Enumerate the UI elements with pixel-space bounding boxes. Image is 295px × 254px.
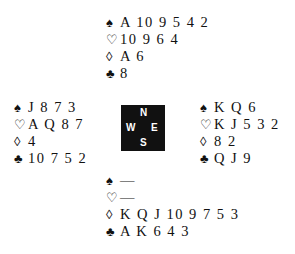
- south-diamonds: ◊K Q J 10 9 7 5 3: [106, 206, 239, 223]
- west-spades: ♠J 8 7 3: [14, 99, 87, 116]
- south-spades: ♠—: [106, 172, 239, 189]
- club-icon: ♣: [106, 65, 120, 82]
- compass-box: N W E S: [121, 105, 165, 151]
- north-clubs: ♣8: [106, 65, 209, 82]
- compass-east-label: E: [151, 122, 158, 133]
- north-diamonds: ◊A 6: [106, 48, 209, 65]
- north-spades: ♠A 10 9 5 4 2: [106, 14, 209, 31]
- diamond-icon: ◊: [106, 206, 120, 223]
- south-hearts: ♡—: [106, 189, 239, 206]
- east-spades: ♠K Q 6: [200, 99, 280, 116]
- diamond-icon: ◊: [200, 133, 214, 150]
- compass-north-label: N: [140, 107, 147, 118]
- spade-icon: ♠: [14, 99, 28, 116]
- heart-icon: ♡: [106, 31, 120, 48]
- south-hand: ♠— ♡— ◊K Q J 10 9 7 5 3 ♣A K 6 4 3: [106, 172, 239, 240]
- heart-icon: ♡: [14, 116, 28, 133]
- diamond-icon: ◊: [14, 133, 28, 150]
- west-hearts: ♡A Q 8 7: [14, 116, 87, 133]
- club-icon: ♣: [200, 150, 214, 167]
- compass-south-label: S: [140, 137, 147, 148]
- diamond-icon: ◊: [106, 48, 120, 65]
- west-diamonds: ◊4: [14, 133, 87, 150]
- heart-icon: ♡: [106, 189, 120, 206]
- club-icon: ♣: [106, 223, 120, 240]
- spade-icon: ♠: [106, 14, 120, 31]
- north-hearts: ♡10 9 6 4: [106, 31, 209, 48]
- east-hearts: ♡K J 5 3 2: [200, 116, 280, 133]
- west-hand: ♠J 8 7 3 ♡A Q 8 7 ◊4 ♣10 7 5 2: [14, 99, 87, 167]
- south-clubs: ♣A K 6 4 3: [106, 223, 239, 240]
- compass-west-label: W: [126, 122, 135, 133]
- east-clubs: ♣Q J 9: [200, 150, 280, 167]
- north-hand: ♠A 10 9 5 4 2 ♡10 9 6 4 ◊A 6 ♣8: [106, 14, 209, 82]
- east-hand: ♠K Q 6 ♡K J 5 3 2 ◊8 2 ♣Q J 9: [200, 99, 280, 167]
- club-icon: ♣: [14, 150, 28, 167]
- west-clubs: ♣10 7 5 2: [14, 150, 87, 167]
- spade-icon: ♠: [106, 172, 120, 189]
- east-diamonds: ◊8 2: [200, 133, 280, 150]
- spade-icon: ♠: [200, 99, 214, 116]
- heart-icon: ♡: [200, 116, 214, 133]
